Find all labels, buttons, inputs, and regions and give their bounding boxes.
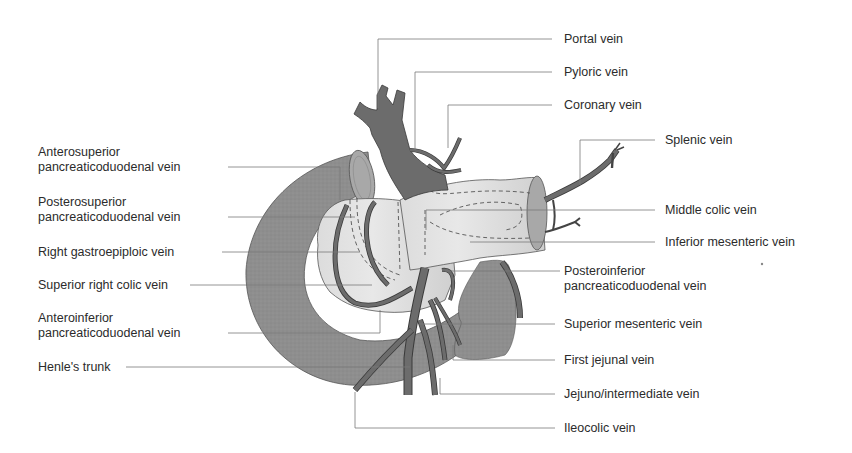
label-line: Anteroinferior <box>38 311 180 326</box>
label-coronary-vein: Coronary vein <box>564 98 642 113</box>
label-line: Jejuno/intermediate vein <box>564 387 700 402</box>
label-line: pancreaticoduodenal vein <box>38 160 180 175</box>
label-line: Posterosuperior <box>38 195 180 210</box>
label-superior-mesenteric-vein: Superior mesenteric vein <box>564 317 702 332</box>
label-posteroinferior-pancreaticoduodenal-vein: Posteroinferior pancreaticoduodenal vein <box>564 264 706 294</box>
label-line: Superior right colic vein <box>38 278 168 293</box>
label-anteroinferior-pancreaticoduodenal-vein: Anteroinferior pancreaticoduodenal vein <box>38 311 180 341</box>
label-line: pancreaticoduodenal vein <box>564 279 706 294</box>
label-line: Superior mesenteric vein <box>564 317 702 332</box>
label-line: Splenic vein <box>665 133 732 148</box>
label-line: First jejunal vein <box>564 353 654 368</box>
label-splenic-vein: Splenic vein <box>665 133 732 148</box>
label-superior-right-colic-vein: Superior right colic vein <box>38 278 168 293</box>
label-anterosuperior-pancreaticoduodenal-vein: Anterosuperior pancreaticoduodenal vein <box>38 145 180 175</box>
label-line: Coronary vein <box>564 98 642 113</box>
label-posterosuperior-pancreaticoduodenal-vein: Posterosuperior pancreaticoduodenal vein <box>38 195 180 225</box>
label-jejuno-intermediate-vein: Jejuno/intermediate vein <box>564 387 700 402</box>
label-henles-trunk: Henle's trunk <box>38 360 111 375</box>
label-line: pancreaticoduodenal vein <box>38 210 180 225</box>
pancreas-tail-cut <box>527 176 547 250</box>
label-line: Pyloric vein <box>564 65 628 80</box>
label-line: Posteroinferior <box>564 264 706 279</box>
label-line: Portal vein <box>564 32 623 47</box>
label-line: Right gastroepiploic vein <box>38 245 174 260</box>
label-line: Ileocolic vein <box>564 421 636 436</box>
label-line: pancreaticoduodenal vein <box>38 326 180 341</box>
label-middle-colic-vein: Middle colic vein <box>665 203 757 218</box>
anatomy-diagram <box>0 0 852 453</box>
label-line: Inferior mesenteric vein <box>665 235 795 250</box>
label-line: Henle's trunk <box>38 360 111 375</box>
label-line: Middle colic vein <box>665 203 757 218</box>
label-inferior-mesenteric-vein: Inferior mesenteric vein <box>665 235 795 250</box>
label-pyloric-vein: Pyloric vein <box>564 65 628 80</box>
label-first-jejunal-vein: First jejunal vein <box>564 353 654 368</box>
label-line: Anterosuperior <box>38 145 180 160</box>
label-portal-vein: Portal vein <box>564 32 623 47</box>
label-right-gastroepiploic-vein: Right gastroepiploic vein <box>38 245 174 260</box>
label-ileocolic-vein: Ileocolic vein <box>564 421 636 436</box>
